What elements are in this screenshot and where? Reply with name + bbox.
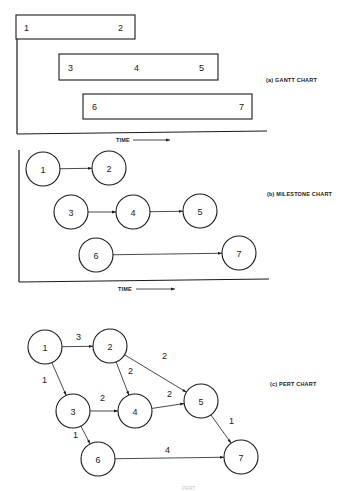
pert-edge-6-7 bbox=[115, 457, 224, 459]
pert-node-4: 4 bbox=[118, 394, 152, 428]
edge-weight-label: 2 bbox=[162, 351, 167, 361]
milestone-node-5: 5 bbox=[183, 194, 217, 228]
pert-edge-3-6 bbox=[81, 426, 90, 444]
gantt-bar-label: 2 bbox=[118, 23, 123, 33]
pert-node-5: 5 bbox=[184, 384, 218, 418]
edge-weight-label: 3 bbox=[76, 332, 81, 342]
node-label: 3 bbox=[70, 407, 75, 417]
node-label: 1 bbox=[42, 343, 47, 353]
gantt-bars: 1234567 bbox=[16, 15, 252, 119]
milestone-node-6: 6 bbox=[79, 238, 113, 272]
gantt-bar-label: 6 bbox=[92, 102, 97, 112]
pert-edge-2-5 bbox=[125, 355, 187, 392]
milestone-caption: (b) MILESTONE CHART bbox=[267, 191, 333, 197]
gantt-x-axis bbox=[17, 131, 267, 134]
gantt-bar: 345 bbox=[59, 54, 218, 80]
node-label: 2 bbox=[107, 342, 112, 352]
edge-weight-label: 4 bbox=[165, 445, 170, 455]
node-label: 1 bbox=[40, 165, 45, 175]
pert-edge-2-4 bbox=[116, 362, 129, 395]
node-label: 4 bbox=[132, 407, 137, 417]
edge-weight-label: 2 bbox=[167, 389, 172, 399]
milestone-node-4: 4 bbox=[116, 195, 150, 229]
node-label: 7 bbox=[236, 249, 241, 259]
pert-node-6: 6 bbox=[81, 442, 115, 476]
gantt-bar-label: 3 bbox=[68, 63, 73, 73]
node-label: 6 bbox=[95, 455, 100, 465]
gantt-bar-rect bbox=[83, 94, 252, 119]
gantt-bar: 67 bbox=[83, 94, 252, 119]
node-label: 7 bbox=[238, 453, 243, 463]
milestone-node-7: 7 bbox=[222, 236, 256, 270]
pert-node-7: 7 bbox=[224, 440, 258, 474]
gantt-bar-label: 1 bbox=[24, 23, 29, 33]
gantt-time-label: TIME bbox=[116, 137, 130, 143]
milestone-node-2: 2 bbox=[92, 151, 126, 185]
node-label: 5 bbox=[197, 207, 202, 217]
pert-node-3: 3 bbox=[56, 394, 90, 428]
pert-chart: 312222114 1234567 (c) PERT CHART bbox=[28, 329, 317, 476]
node-label: 3 bbox=[68, 208, 73, 218]
gantt-bar-label: 7 bbox=[239, 102, 244, 112]
pert-node-2: 2 bbox=[93, 329, 127, 363]
node-label: 5 bbox=[198, 397, 203, 407]
pert-node-1: 1 bbox=[28, 330, 62, 364]
gantt-chart: 1234567 TIME (a) GANTT CHART bbox=[16, 15, 317, 143]
milestone-time-label: TIME bbox=[118, 286, 132, 292]
gantt-bar: 12 bbox=[16, 15, 135, 39]
edge-weight-label: 1 bbox=[229, 416, 234, 426]
milestone-node-1: 1 bbox=[26, 152, 60, 186]
node-label: 4 bbox=[130, 208, 135, 218]
edge-weight-label: 1 bbox=[42, 375, 47, 385]
gantt-caption: (a) GANTT CHART bbox=[266, 77, 317, 83]
milestone-edge-6-7 bbox=[113, 253, 222, 255]
edge-weight-label: 2 bbox=[100, 393, 105, 403]
milestone-x-axis bbox=[19, 279, 269, 282]
milestone-nodes: 1234567 bbox=[26, 151, 256, 272]
node-label: 2 bbox=[106, 164, 111, 174]
scheduling-charts-diagram: 1234567 TIME (a) GANTT CHART 1234567 TIM… bbox=[0, 0, 357, 491]
milestone-node-3: 3 bbox=[54, 195, 88, 229]
pert-caption: (c) PERT CHART bbox=[270, 381, 317, 387]
edge-weight-label: 1 bbox=[73, 430, 78, 440]
gantt-bar-label: 4 bbox=[134, 63, 139, 73]
pert-nodes: 1234567 bbox=[28, 329, 258, 476]
footer-faint-text: PERT bbox=[182, 485, 195, 491]
edge-weight-label: 2 bbox=[128, 366, 133, 376]
node-label: 6 bbox=[93, 251, 98, 261]
pert-edge-1-3 bbox=[52, 363, 66, 396]
milestone-chart: 1234567 TIME (b) MILESTONE CHART bbox=[19, 150, 333, 292]
gantt-bar-label: 5 bbox=[199, 63, 204, 73]
pert-edge-4-5 bbox=[152, 404, 184, 409]
